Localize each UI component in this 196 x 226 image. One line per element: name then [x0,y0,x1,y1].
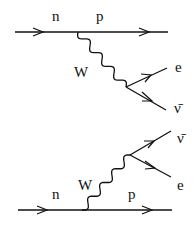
label-w: W [74,64,89,80]
decay-diagram: n p W e ν̄ [15,8,184,116]
label-n: n [52,8,60,24]
label-w: W [78,177,93,193]
electron-line [130,155,171,177]
feynman-diagrams: n p W e ν̄ n p W ν̄ e [0,0,196,226]
antineutrino-line [130,131,171,155]
label-p: p [96,8,104,24]
electron-line [126,68,167,87]
label-p: p [128,186,136,202]
inverse-diagram: n p W ν̄ e [18,130,187,214]
antineutrino-line [126,87,166,110]
arrow-e-icon [145,161,155,169]
label-e: e [177,177,184,193]
label-e: e [175,59,182,75]
label-n: n [52,186,60,202]
label-nubar: ν̄ [174,100,184,116]
label-nubar: ν̄ [177,130,187,146]
